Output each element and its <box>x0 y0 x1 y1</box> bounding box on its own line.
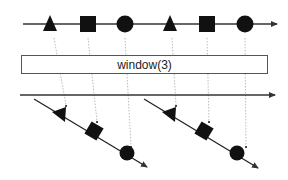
operator-box: window(3) <box>21 55 268 74</box>
circle-marble <box>237 16 254 33</box>
marble-diagram <box>0 0 288 180</box>
square-marble <box>199 16 215 32</box>
square-marble <box>84 121 103 140</box>
triangle-marble <box>162 107 176 122</box>
square-marble <box>194 121 213 140</box>
window-observable-2 <box>144 99 258 168</box>
window-observable-1 <box>34 99 147 167</box>
circle-marble <box>120 146 135 161</box>
circle-marble <box>230 146 245 161</box>
triangle-marble <box>52 107 66 122</box>
triangle-marble <box>163 15 177 31</box>
operator-label: window(3) <box>117 58 172 72</box>
triangle-marble <box>43 15 57 31</box>
square-marble <box>80 16 96 32</box>
circle-marble <box>117 16 134 33</box>
